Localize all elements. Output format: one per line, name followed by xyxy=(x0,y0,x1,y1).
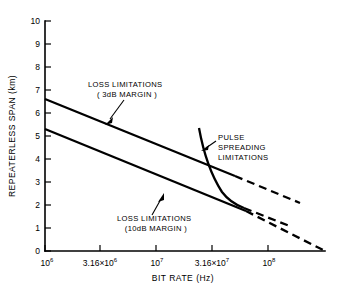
y-tick-label-5: 5 xyxy=(35,131,40,141)
x-tick-label-4: 108 xyxy=(263,257,276,268)
x-tick-base-3: 3.16×10 xyxy=(195,258,226,268)
x-tick-base-0: 10 xyxy=(41,258,51,268)
repeaterless-span-vs-bit-rate-chart: 0 1 2 3 4 5 6 7 8 9 10 106 xyxy=(0,0,342,297)
y-tick-label-7: 7 xyxy=(35,85,40,95)
annotation-loss-10db-arrowhead xyxy=(158,193,164,202)
annotation-pulse-spreading-line1: PULSE xyxy=(218,133,245,142)
svg-text:106: 106 xyxy=(41,257,54,268)
svg-text:3.16×106: 3.16×106 xyxy=(83,257,118,268)
x-axis-title: BIT RATE (Hz) xyxy=(152,273,214,283)
x-tick-exp-0: 6 xyxy=(50,257,54,263)
svg-text:3.16×107: 3.16×107 xyxy=(195,257,230,268)
annotation-pulse-spreading-line2: SPREADING xyxy=(218,143,266,152)
series-line-loss-3db-solid xyxy=(45,99,235,176)
annotation-loss-3db-line2: ( 3dB MARGIN ) xyxy=(97,90,157,99)
annotation-loss-10db-line2: (10dB MARGIN ) xyxy=(125,224,187,233)
x-tick-base-2: 10 xyxy=(151,258,161,268)
annotation-pulse-spreading: PULSE SPREADING LIMITATIONS xyxy=(201,133,268,162)
annotation-loss-3db: LOSS LIMITATIONS ( 3dB MARGIN ) xyxy=(88,80,163,125)
y-tick-label-3: 3 xyxy=(35,177,40,187)
x-tick-exp-4: 8 xyxy=(272,257,276,263)
series-line-loss-10db-dashed xyxy=(246,211,325,251)
svg-text:107: 107 xyxy=(151,257,164,268)
annotation-pulse-spreading-line3: LIMITATIONS xyxy=(218,153,268,162)
svg-text:108: 108 xyxy=(263,257,276,268)
x-tick-label-1: 3.16×106 xyxy=(83,257,118,268)
y-tick-label-6: 6 xyxy=(35,108,40,118)
x-tick-exp-1: 6 xyxy=(114,257,118,263)
annotation-loss-10db: LOSS LIMITATIONS (10dB MARGIN ) xyxy=(117,193,192,233)
series-line-loss-3db-dashed xyxy=(235,176,300,203)
y-tick-label-2: 2 xyxy=(35,200,40,210)
annotation-loss-10db-line1: LOSS LIMITATIONS xyxy=(117,214,192,223)
x-axis-ticks: 106 3.16×106 107 3.16×107 108 xyxy=(41,245,276,268)
y-tick-label-8: 8 xyxy=(35,62,40,72)
y-tick-label-0: 0 xyxy=(35,246,40,256)
x-tick-label-0: 106 xyxy=(41,257,54,268)
x-tick-exp-3: 7 xyxy=(226,257,230,263)
y-tick-label-4: 4 xyxy=(35,154,40,164)
y-axis-title: REPEATERLESS SPAN (km) xyxy=(7,75,17,197)
series-curve-pulse-spreading-dashed xyxy=(244,208,292,227)
x-tick-base-1: 3.16×10 xyxy=(83,258,114,268)
x-tick-base-4: 10 xyxy=(263,258,273,268)
x-tick-exp-2: 7 xyxy=(160,257,164,263)
y-axis-ticks: 0 1 2 3 4 5 6 7 8 9 10 xyxy=(31,16,51,256)
y-tick-label-1: 1 xyxy=(35,223,40,233)
chart-figure: 0 1 2 3 4 5 6 7 8 9 10 106 xyxy=(0,0,342,297)
annotation-loss-3db-arrowhead xyxy=(105,117,113,125)
y-tick-label-10: 10 xyxy=(31,16,41,26)
x-tick-label-3: 3.16×107 xyxy=(195,257,230,268)
annotation-loss-3db-leader xyxy=(110,100,124,119)
y-tick-label-9: 9 xyxy=(35,39,40,49)
x-tick-label-2: 107 xyxy=(151,257,164,268)
annotation-loss-3db-line1: LOSS LIMITATIONS xyxy=(88,80,163,89)
